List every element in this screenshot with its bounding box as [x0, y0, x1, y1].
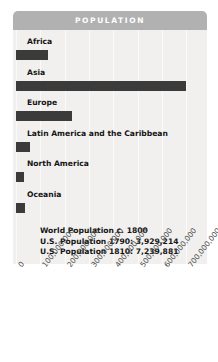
bar: [16, 172, 24, 182]
bar-group: Europe: [16, 99, 207, 130]
chart-header: POPULATION: [13, 11, 207, 30]
bar-label: Africa: [27, 38, 52, 46]
bar-group: Africa: [16, 38, 207, 69]
bar-label: North America: [27, 160, 89, 168]
bar-group: Asia: [16, 69, 207, 100]
bar-label: Europe: [27, 99, 57, 107]
plot-area: AfricaAsiaEuropeLatin America and the Ca…: [13, 30, 207, 264]
bar-group: Oceania: [16, 191, 207, 222]
chart-title: POPULATION: [75, 17, 145, 25]
bar: [16, 50, 48, 60]
bar: [16, 111, 72, 121]
bar-label: Oceania: [27, 191, 61, 199]
bar: [16, 142, 30, 152]
bar-group: Latin America and the Caribbean: [16, 130, 207, 161]
x-axis-tick-labels: 0100,000,000200,000,000300,000,000400,00…: [0, 264, 218, 362]
population-bar-chart: POPULATION AfricaAsiaEuropeLatin America…: [0, 0, 218, 362]
bar: [16, 203, 25, 213]
bar-group: North America: [16, 160, 207, 191]
bar: [16, 81, 186, 91]
bar-label: Latin America and the Caribbean: [27, 130, 168, 138]
bar-label: Asia: [27, 69, 45, 77]
